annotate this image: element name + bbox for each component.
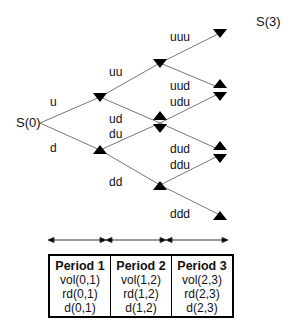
- period-vol: vol(0,1): [50, 273, 110, 287]
- node-up-arrow-icon: [213, 79, 227, 88]
- period-table: Period 1 vol(0,1) rd(0,1) d(0,1) Period …: [48, 254, 234, 318]
- period-d: d(0,1): [50, 301, 110, 315]
- period-title: Period 2: [111, 259, 171, 273]
- terminal-label: S(3): [256, 15, 281, 28]
- node-up-arrow-icon: [93, 145, 107, 154]
- node-down-arrow-icon: [213, 92, 227, 101]
- period-column-2: Period 2 vol(1,2) rd(1,2) d(1,2): [111, 256, 172, 316]
- period-rd: rd(0,1): [50, 287, 110, 301]
- branch-label-ddu: ddu: [170, 159, 190, 172]
- node-down-arrow-icon: [213, 154, 227, 163]
- period-column-3: Period 3 vol(2,3) rd(2,3) d(2,3): [172, 256, 232, 316]
- period-d: d(1,2): [111, 301, 171, 315]
- period-vol: vol(2,3): [172, 273, 232, 287]
- node-down-arrow-icon: [153, 59, 167, 68]
- branch-label-uuu: uuu: [170, 31, 190, 44]
- branch-label-u: u: [50, 96, 57, 109]
- branch-label-udu: udu: [170, 96, 190, 109]
- node-down-arrow-icon: [93, 93, 107, 102]
- period-d: d(2,3): [172, 301, 232, 315]
- branch-label-du: du: [109, 128, 122, 141]
- period-arrows: [48, 238, 228, 243]
- branch-label-dd: dd: [109, 176, 122, 189]
- branch-label-ud: ud: [109, 113, 122, 126]
- period-column-1: Period 1 vol(0,1) rd(0,1) d(0,1): [50, 256, 111, 316]
- branch-label-uud: uud: [170, 80, 190, 93]
- period-title: Period 1: [50, 259, 110, 273]
- period-rd: rd(2,3): [172, 287, 232, 301]
- period-vol: vol(1,2): [111, 273, 171, 287]
- node-up-arrow-icon: [213, 141, 227, 150]
- period-title: Period 3: [172, 259, 232, 273]
- root-label: S(0): [16, 116, 41, 129]
- period-rd: rd(1,2): [111, 287, 171, 301]
- branch-label-uu: uu: [109, 66, 122, 79]
- branch-label-dud: dud: [170, 143, 190, 156]
- node-up-arrow-icon: [153, 111, 167, 120]
- branch-label-d: d: [50, 142, 57, 155]
- tree-edges: [40, 33, 220, 215]
- node-down-arrow-icon: [213, 29, 227, 38]
- branch-label-ddd: ddd: [170, 208, 190, 221]
- node-down-arrow-icon: [153, 124, 167, 133]
